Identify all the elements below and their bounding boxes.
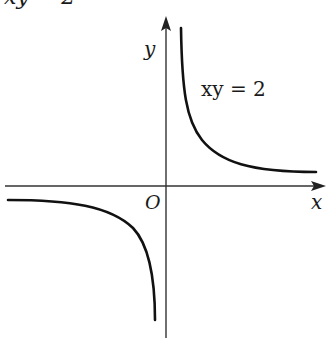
- title-fragment: xy = 2: [4, 0, 75, 9]
- hyperbola-branch-third-quadrant: [8, 200, 155, 320]
- x-axis-label: x: [311, 190, 322, 214]
- equation-label: xy = 2: [201, 77, 266, 101]
- hyperbola-diagram: xy = 2 y x O xy = 2: [0, 0, 326, 338]
- y-axis-label: y: [143, 37, 156, 61]
- origin-label: O: [145, 191, 161, 213]
